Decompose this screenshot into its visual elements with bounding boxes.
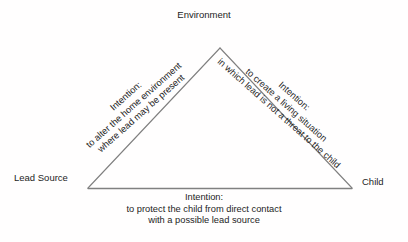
- edge-caption-bottom-line-2: to protect the child from direct contact: [0, 204, 408, 216]
- diagram-canvas: Environment Lead Source Child Intention:…: [0, 0, 408, 242]
- edge-caption-bottom-line-3: with a possible lead source: [0, 215, 408, 227]
- vertex-label-environment: Environment: [0, 9, 408, 21]
- vertex-label-child: Child: [362, 176, 384, 188]
- edge-caption-bottom: Intention: to protect the child from dir…: [0, 192, 408, 227]
- vertex-label-lead-source: Lead Source: [14, 172, 68, 184]
- edge-caption-bottom-line-1: Intention:: [0, 192, 408, 204]
